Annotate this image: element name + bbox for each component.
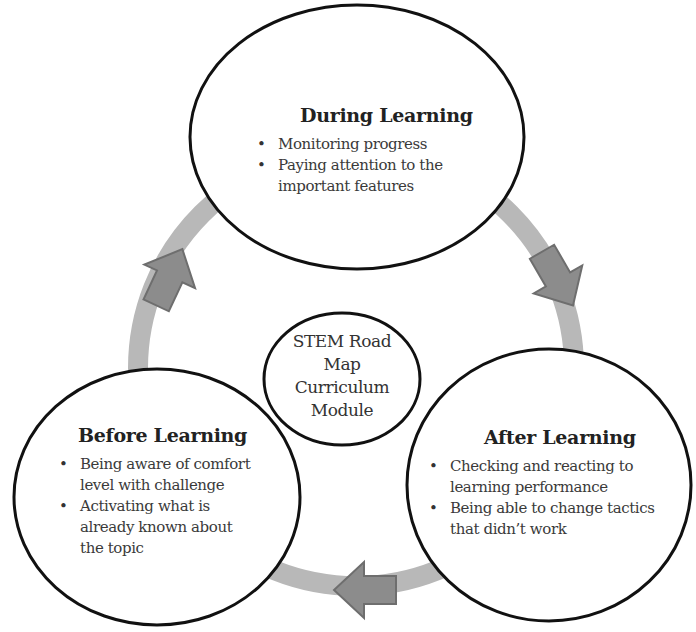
- bullet-item: Monitoring progress: [278, 134, 482, 155]
- bullet-item: Being able to change tactics that didn’t…: [450, 498, 665, 540]
- bullet-list: Checking and reacting to learning perfor…: [424, 456, 684, 540]
- bullet-item: Being aware of comfort level with challe…: [80, 454, 280, 496]
- node-during-text: During Learning Monitoring progress Payi…: [252, 104, 482, 197]
- center-line: Map: [282, 353, 402, 376]
- center-text: STEM Road Map Curriculum Module: [282, 330, 402, 422]
- node-title: During Learning: [252, 104, 482, 126]
- bullet-list: Monitoring progress Paying attention to …: [252, 134, 482, 197]
- node-title: Before Learning: [54, 424, 294, 446]
- center-line: Curriculum: [282, 376, 402, 399]
- bullet-list: Being aware of comfort level with challe…: [54, 454, 294, 559]
- node-before-text: Before Learning Being aware of comfort l…: [54, 424, 294, 559]
- node-after-text: After Learning Checking and reacting to …: [424, 426, 684, 540]
- arrow-after-to-before-icon: [334, 562, 396, 618]
- node-title: After Learning: [424, 426, 684, 448]
- bullet-item: Checking and reacting to learning perfor…: [450, 456, 670, 498]
- bullet-item: Paying attention to the important featur…: [278, 155, 458, 197]
- bullet-item: Activating what is already known about t…: [80, 496, 250, 559]
- center-line: Module: [282, 399, 402, 422]
- center-line: STEM Road: [282, 330, 402, 353]
